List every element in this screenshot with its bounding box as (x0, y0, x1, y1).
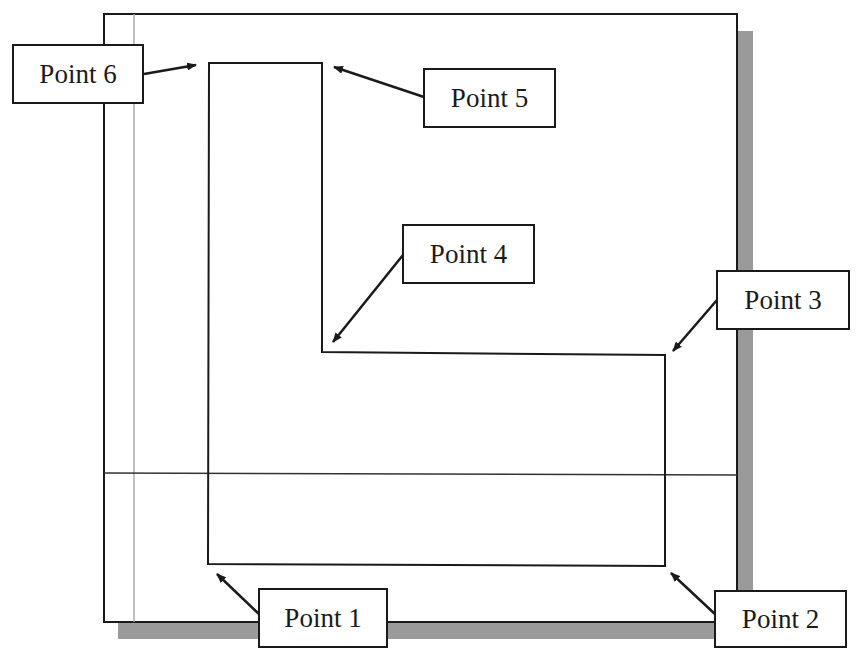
frame-shadow-right (737, 31, 753, 639)
point-label-text: Point 4 (430, 239, 507, 270)
point-label-text: Point 1 (284, 603, 361, 634)
point-label-text: Point 6 (39, 59, 116, 90)
point-4-label: Point 4 (402, 224, 535, 284)
point-2-label: Point 2 (714, 590, 847, 648)
point-6-label: Point 6 (12, 44, 144, 104)
point-5-label: Point 5 (423, 68, 556, 128)
point-3-label: Point 3 (716, 270, 850, 330)
drawing-frame (104, 14, 737, 622)
point-1-label: Point 1 (258, 588, 388, 648)
point-label-text: Point 2 (742, 604, 819, 635)
frame-shadow-bottom (118, 622, 753, 639)
point-label-text: Point 5 (451, 83, 528, 114)
point-label-text: Point 3 (744, 285, 821, 316)
